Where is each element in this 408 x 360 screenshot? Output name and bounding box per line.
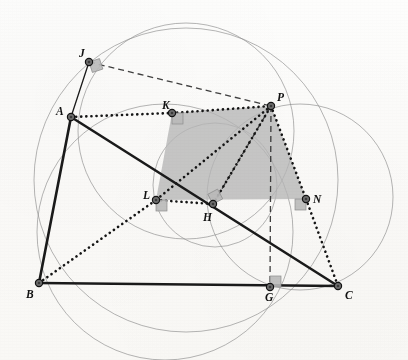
point-label-N: N [313, 194, 321, 206]
segment-AB [39, 117, 71, 283]
segment-BL [39, 200, 156, 283]
point-label-P: P [277, 92, 284, 104]
point-core-B [38, 282, 41, 285]
point-label-G: G [265, 292, 273, 304]
point-core-P [270, 105, 273, 108]
point-label-J: J [79, 48, 85, 60]
point-label-K: K [162, 100, 170, 112]
point-core-N [305, 198, 308, 201]
point-core-C [337, 285, 340, 288]
point-core-A [70, 116, 73, 119]
point-core-L [155, 199, 158, 202]
point-core-G [269, 286, 272, 289]
point-label-C: C [345, 290, 353, 302]
segment-BC [39, 283, 338, 286]
point-label-A: A [56, 106, 64, 118]
geometry-figure: ABCGHJKLNP [0, 0, 408, 360]
point-core-J [88, 61, 91, 64]
point-core-K [171, 112, 174, 115]
point-label-B: B [26, 289, 34, 301]
point-core-H [212, 203, 215, 206]
segment-JP [89, 62, 271, 106]
segment-NC [306, 199, 338, 286]
geometry-canvas [0, 0, 408, 360]
point-label-L: L [143, 190, 150, 202]
segment-AK [71, 113, 172, 117]
point-label-H: H [203, 212, 212, 224]
